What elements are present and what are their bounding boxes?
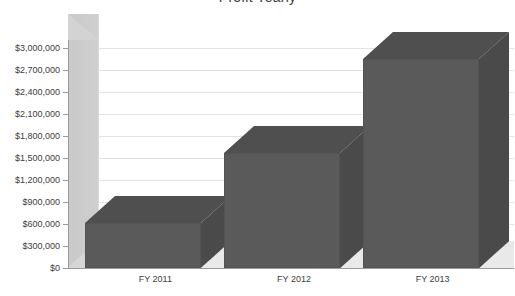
- chart-title: Profit Yearly: [0, 0, 515, 5]
- y-axis-tick-label: $300,000: [0, 241, 60, 251]
- y-axis-tick-label: $1,800,000: [0, 131, 60, 141]
- chart-y-axis: [68, 40, 69, 268]
- bar-front-face: [224, 153, 340, 268]
- x-axis-tick-label: FY 2011: [139, 274, 172, 284]
- y-axis-tick-label: $0: [0, 263, 60, 273]
- y-axis-tick-label: $3,000,000: [0, 43, 60, 53]
- y-axis-tick-label: $900,000: [0, 197, 60, 207]
- bar-front-face: [363, 59, 479, 268]
- bar-front-face: [85, 223, 201, 268]
- x-axis-tick-label: FY 2012: [277, 274, 311, 284]
- y-axis-tick-label: $600,000: [0, 219, 60, 229]
- y-axis-tick-label: $1,200,000: [0, 175, 60, 185]
- y-axis-tick-label: $2,700,000: [0, 65, 60, 75]
- y-axis-tick-label: $1,500,000: [0, 153, 60, 163]
- x-axis-tick-label: FY 2013: [416, 274, 450, 284]
- chart-container: Profit Yearly $0$300,000$600,000$900,000…: [0, 0, 515, 296]
- y-axis-tick-label: $2,100,000: [0, 109, 60, 119]
- bar-side-face: [479, 32, 510, 269]
- chart-x-axis: [68, 268, 514, 269]
- y-axis-tick-label: $2,400,000: [0, 87, 60, 97]
- chart-wall-wedge: [68, 14, 99, 40]
